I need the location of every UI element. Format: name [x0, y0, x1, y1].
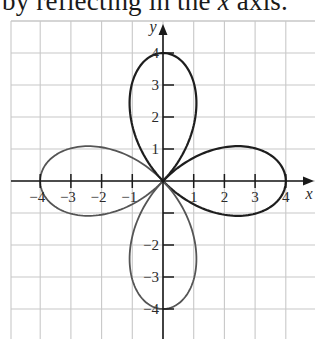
tick-labels: −4−3−2−11234−4−3−21234xy: [29, 18, 312, 317]
axes: [11, 24, 314, 339]
x-axis-label: x: [304, 185, 312, 202]
y-tick-label: 2: [152, 109, 160, 125]
x-tick-label: −4: [29, 189, 45, 205]
y-tick-label: 1: [152, 141, 160, 157]
x-tick-label: 1: [190, 189, 198, 205]
y-tick-label: 4: [152, 45, 160, 61]
y-tick-label: −3: [143, 269, 159, 285]
y-tick-label: 3: [152, 77, 160, 93]
x-tick-label: 3: [251, 189, 259, 205]
x-tick-label: −1: [121, 189, 137, 205]
y-axis-arrow-icon: [159, 24, 168, 35]
x-tick-label: −3: [60, 189, 76, 205]
x-tick-label: −2: [91, 189, 107, 205]
y-axis-label: y: [147, 18, 157, 36]
x-tick-label: 4: [282, 189, 290, 205]
y-tick-label: −2: [143, 237, 159, 253]
y-tick-label: −4: [143, 301, 159, 317]
polar-rose-chart: −4−3−2−11234−4−3−21234xy: [0, 0, 315, 339]
x-tick-label: 2: [221, 189, 229, 205]
